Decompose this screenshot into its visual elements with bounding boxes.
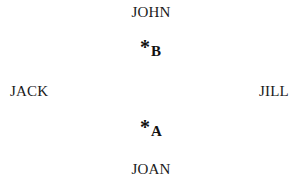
label-john: JOHN (131, 4, 171, 20)
label-joan: JOAN (131, 161, 171, 177)
label-jill: JILL (259, 83, 289, 99)
label-jack: JACK (10, 83, 48, 99)
point-a-marker: *A (140, 118, 162, 138)
asterisk-icon: * (140, 36, 150, 58)
point-a-label: A (151, 123, 162, 139)
asterisk-icon: * (140, 116, 150, 138)
point-b-marker: *B (140, 38, 161, 58)
point-b-label: B (151, 43, 161, 59)
